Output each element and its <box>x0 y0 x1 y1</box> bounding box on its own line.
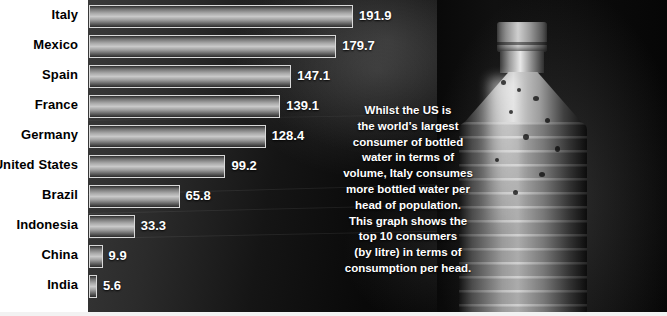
category-label-france: France <box>35 97 78 112</box>
bar-united-states <box>89 155 225 178</box>
chart-row: Indonesia33.3 <box>0 212 667 242</box>
bar-mexico <box>89 35 336 58</box>
value-label-brazil: 65.8 <box>186 188 211 203</box>
value-label-spain: 147.1 <box>297 68 330 83</box>
category-label-germany: Germany <box>21 127 78 142</box>
category-label-italy: Italy <box>51 7 78 22</box>
chart-row: Spain147.1 <box>0 62 667 92</box>
bar-indonesia <box>89 215 135 238</box>
bar-spain <box>89 65 291 88</box>
bar-france <box>89 95 280 118</box>
chart-row: France139.1 <box>0 92 667 122</box>
category-label-mexico: Mexico <box>33 37 78 52</box>
bar-italy <box>89 5 353 28</box>
chart-row: Brazil65.8 <box>0 182 667 212</box>
category-label-united-states: United States <box>0 157 78 172</box>
bar-india <box>89 275 97 298</box>
chart-row: India5.6 <box>0 272 667 302</box>
category-label-india: India <box>47 277 78 292</box>
value-label-indonesia: 33.3 <box>141 218 166 233</box>
value-label-india: 5.6 <box>103 278 121 293</box>
bar-brazil <box>89 185 180 208</box>
bottled-water-consumption-figure: Whilst the US isthe world’s largestconsu… <box>0 0 667 316</box>
value-label-germany: 128.4 <box>272 128 305 143</box>
bar-chart: Italy191.9Mexico179.7Spain147.1France139… <box>0 0 667 312</box>
chart-row: Mexico179.7 <box>0 32 667 62</box>
category-label-spain: Spain <box>42 67 78 82</box>
value-label-mexico: 179.7 <box>342 38 375 53</box>
chart-row: China9.9 <box>0 242 667 272</box>
bar-china <box>89 245 103 268</box>
category-label-indonesia: Indonesia <box>16 217 78 232</box>
bar-germany <box>89 125 266 148</box>
value-label-united-states: 99.2 <box>231 158 256 173</box>
value-label-italy: 191.9 <box>359 8 392 23</box>
value-label-china: 9.9 <box>109 248 127 263</box>
bottom-border <box>0 312 667 316</box>
category-label-brazil: Brazil <box>42 187 78 202</box>
chart-row: Italy191.9 <box>0 2 667 32</box>
category-label-china: China <box>41 247 78 262</box>
value-label-france: 139.1 <box>286 98 319 113</box>
chart-row: United States99.2 <box>0 152 667 182</box>
chart-row: Germany128.4 <box>0 122 667 152</box>
